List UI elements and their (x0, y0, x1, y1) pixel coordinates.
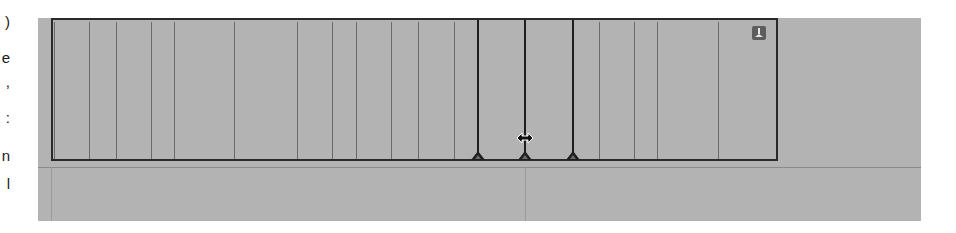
edit-line (332, 22, 333, 159)
edit-line (391, 22, 392, 159)
edit-line (634, 22, 635, 159)
pin-icon[interactable] (752, 26, 766, 40)
marker-handle-icon[interactable] (566, 151, 580, 160)
clipped-text-fragment: l (0, 176, 10, 191)
edit-line (116, 22, 117, 159)
edit-line (174, 22, 175, 159)
track-divider (38, 167, 921, 168)
edit-line (454, 22, 455, 159)
edit-line (599, 22, 600, 159)
timeline-track-area[interactable] (38, 18, 921, 221)
edit-line (356, 22, 357, 159)
clipped-text-fragment: n (0, 148, 10, 163)
edit-line (89, 22, 90, 159)
marker-line[interactable] (477, 20, 479, 160)
marker-handle-icon[interactable] (518, 151, 532, 160)
clipped-text-fragment: e (0, 50, 10, 65)
edit-line (234, 22, 235, 159)
clipped-text-fragment: ) (0, 14, 10, 29)
edit-line (151, 22, 152, 159)
edit-line (54, 22, 55, 159)
marker-handle-icon[interactable] (471, 151, 485, 160)
clipped-text-fragment: : (0, 110, 10, 125)
clipped-text-fragment: , (0, 74, 10, 89)
edit-line (418, 22, 419, 159)
timeline-clip[interactable] (51, 18, 778, 161)
edit-line (297, 22, 298, 159)
edit-line (718, 22, 719, 159)
marker-line[interactable] (572, 20, 574, 160)
resize-horizontal-cursor-icon (515, 131, 535, 145)
lower-track-guide (51, 167, 52, 221)
playhead-guide (525, 167, 526, 221)
edit-line (657, 22, 658, 159)
